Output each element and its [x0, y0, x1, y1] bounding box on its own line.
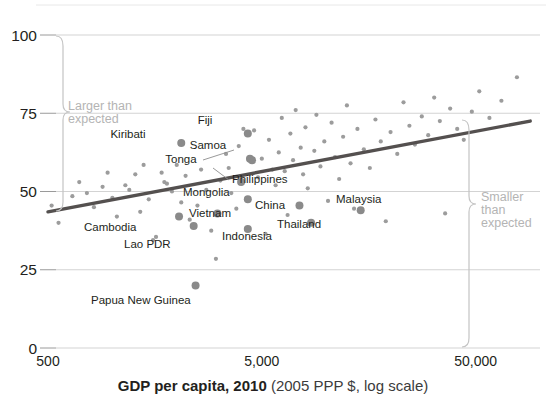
data-point	[50, 203, 54, 207]
data-point	[348, 161, 352, 165]
data-point	[420, 114, 424, 118]
data-point	[127, 188, 131, 192]
data-point	[318, 164, 322, 168]
data-point	[199, 167, 203, 171]
annotation-smaller-line2: than	[481, 203, 505, 217]
data-point	[160, 171, 164, 175]
country-label-fiji: Fiji	[198, 114, 213, 126]
data-point	[455, 127, 459, 131]
data-point	[368, 166, 372, 170]
data-point	[277, 150, 281, 154]
data-point	[448, 106, 452, 110]
data-point	[470, 110, 474, 114]
x-axis-title-light: (2005 PPP $, log scale)	[267, 377, 428, 394]
x-axis-title-bold: GDP per capita, 2010	[118, 377, 267, 394]
data-point	[100, 185, 104, 189]
annotation-smaller-line1: Smaller	[481, 190, 523, 204]
y-tick-label-75: 75	[20, 105, 37, 122]
data-point	[77, 180, 81, 184]
data-point	[438, 119, 442, 123]
data-point	[123, 183, 127, 187]
country-label-samoa: Samoa	[190, 139, 227, 151]
x-tick-labels-group: 5005,00050,000	[36, 353, 497, 369]
x-axis-title: GDP per capita, 2010 (2005 PPP $, log sc…	[0, 377, 546, 394]
data-point	[214, 257, 218, 261]
data-point	[384, 219, 388, 223]
country-label-malaysia: Malaysia	[336, 193, 382, 205]
data-point	[432, 96, 436, 100]
country-label-vietnam: Vietnam	[189, 207, 231, 219]
data-point	[388, 130, 392, 134]
x-tick-label-500: 500	[36, 353, 60, 369]
chart-canvas: 0255075100 FijiKiribatiSamoaTongaPhilipp…	[0, 0, 546, 414]
y-tick-label-25: 25	[20, 261, 37, 278]
data-point	[355, 127, 359, 131]
data-point	[401, 100, 405, 104]
data-point-cambodia	[175, 213, 183, 221]
annotation-larger-line2: expected	[68, 112, 119, 126]
data-point	[341, 135, 345, 139]
data-point-china	[295, 202, 303, 210]
data-point-kiribati	[177, 139, 185, 147]
country-label-mongolia: Mongolia	[183, 186, 230, 198]
x-tick-label-50,000: 50,000	[454, 353, 497, 369]
data-point	[462, 138, 466, 142]
data-point	[294, 108, 298, 112]
data-point	[165, 182, 169, 186]
data-point	[291, 158, 295, 162]
data-point	[106, 171, 110, 175]
data-point	[209, 229, 213, 233]
data-point	[306, 186, 310, 190]
country-label-indonesia: Indonesia	[222, 230, 272, 242]
data-point	[326, 199, 330, 203]
data-point	[322, 139, 326, 143]
country-label-kiribati: Kiribati	[110, 128, 145, 140]
data-point	[183, 174, 187, 178]
leader-lines-group	[203, 150, 234, 180]
data-point	[237, 144, 241, 148]
country-label-papua-new-guinea: Papua New Guinea	[91, 294, 191, 306]
leader-line-1	[203, 150, 234, 160]
data-point	[260, 157, 264, 161]
data-point	[395, 152, 399, 156]
data-point	[56, 221, 60, 225]
data-point	[379, 139, 383, 143]
data-point	[85, 191, 89, 195]
data-point	[285, 213, 289, 217]
country-label-cambodia: Cambodia	[84, 221, 137, 233]
data-point	[303, 125, 307, 129]
data-point	[288, 131, 292, 135]
data-point	[499, 99, 503, 103]
data-point	[329, 121, 333, 125]
data-point	[234, 207, 238, 211]
data-point	[179, 200, 183, 204]
data-point	[241, 127, 245, 131]
data-point	[477, 89, 481, 93]
data-point	[407, 124, 411, 128]
data-point	[352, 207, 356, 211]
x-tick-label-5,000: 5,000	[244, 353, 279, 369]
data-point	[280, 116, 284, 120]
annotation-larger-line1: Larger than	[68, 99, 132, 113]
data-point	[373, 117, 377, 121]
data-point-lao-pdr	[190, 222, 198, 230]
data-point-fiji	[244, 130, 252, 138]
data-point	[252, 128, 256, 132]
data-point	[301, 172, 305, 176]
data-point-tonga	[248, 156, 256, 164]
data-point	[227, 166, 231, 170]
data-point	[70, 194, 74, 198]
data-point	[337, 177, 341, 181]
data-point	[142, 163, 146, 167]
data-point	[147, 197, 151, 201]
y-tick-label-50: 50	[20, 183, 38, 200]
y-tick-marks-group	[40, 35, 56, 348]
country-label-thailand: Thailand	[277, 218, 321, 230]
data-point	[345, 103, 349, 107]
data-point	[487, 116, 491, 120]
data-point	[314, 113, 318, 117]
country-label-philippines: Philippines	[232, 173, 288, 185]
annotation-smaller-line3: expected	[481, 216, 532, 230]
data-point	[443, 211, 447, 215]
country-label-lao-pdr: Lao PDR	[124, 238, 171, 250]
